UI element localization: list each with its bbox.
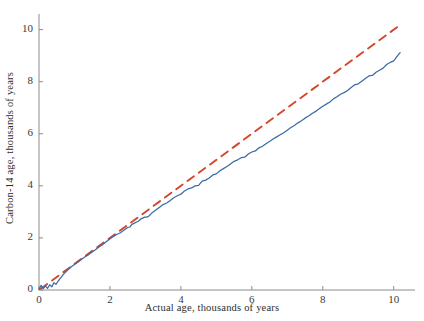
y-axis-title-wrapper: Carbon-14 age, thousands of years (0, 0, 18, 295)
data-series (39, 24, 401, 289)
y-axis-title: Carbon-14 age, thousands of years (4, 71, 15, 223)
chart-figure: 0246810 0246810 Actual age, thousands of… (0, 0, 424, 321)
x-axis-title: Actual age, thousands of years (0, 302, 424, 313)
series-identity-line (41, 24, 401, 288)
chart-plot-area (0, 0, 424, 321)
series-calibration-curve (39, 53, 400, 290)
